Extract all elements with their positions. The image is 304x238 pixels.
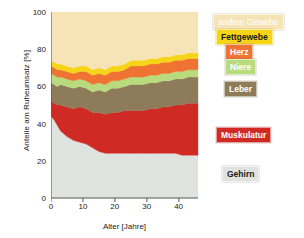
legend-item-niere[interactable]: Niere: [225, 59, 256, 75]
y-tick-60: 60: [20, 83, 46, 91]
legend-item-herz[interactable]: Herz: [225, 44, 253, 60]
y-tick-0: 0: [20, 195, 46, 203]
stacked-area-chart: Anteile am Ruheumsatz [%] 0 20 40 60 80 …: [0, 0, 304, 238]
legend-item-andere-gewebe[interactable]: andere Gewebe: [213, 14, 284, 30]
x-axis-title: Alter [Jahre]: [51, 222, 198, 231]
legend-item-muskulatur[interactable]: Muskulatur: [216, 127, 271, 143]
y-tick-40: 40: [20, 121, 46, 129]
y-tick-100: 100: [20, 9, 46, 17]
y-tick-80: 80: [20, 46, 46, 54]
y-tick-20: 20: [20, 158, 46, 166]
legend-item-gehirn[interactable]: Gehirn: [222, 166, 259, 182]
legend-item-fettgewebe[interactable]: Fettgewebe: [216, 29, 273, 45]
area-series-group: [51, 12, 198, 198]
legend-item-leber[interactable]: Leber: [224, 81, 257, 97]
